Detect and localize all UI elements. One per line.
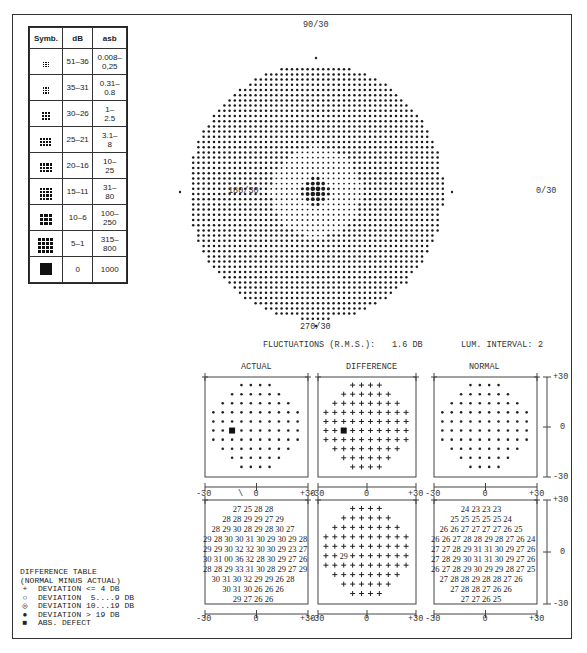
x-tick-zero: 0 [364,489,369,499]
x-tick-zero: 0 [254,614,259,624]
x-tick-min: -30 [309,614,324,624]
difference-panel [318,377,416,477]
x-tick-min: -30 [309,489,324,499]
difference-table-legend: DIFFERENCE TABLE (NORMAL MINUS ACTUAL) +… [20,568,134,628]
x-tick-max: +30 [408,614,423,624]
absolute-defect-marker [229,428,235,434]
x-tick-max: +30 [408,489,423,499]
y-tick-zero: 0 [560,422,565,432]
x-tick-zero: 0 [483,489,488,499]
y-tick-zero: 0 [560,547,565,557]
x-tick-max: +30 [529,614,544,624]
difference-legend-item: ■ABS. DEFECT [20,619,134,628]
x-tick-zero: 0 [364,614,369,624]
deviation-symbol-icon: ■ [20,619,30,628]
x-tick-min: -30 [196,489,211,499]
normal-panel [434,377,537,477]
absolute-defect-marker [341,428,347,434]
x-tick-min: -30 [196,614,211,624]
actual-panel [205,377,308,477]
actual-values-grid: 27 25 28 28 28 28 29 29 27 29 28 29 30 2… [203,504,303,604]
axis-mark: \ [238,489,243,499]
x-tick-min: -30 [425,614,440,624]
difference-values-panel [318,500,416,604]
y-tick-min: -30 [553,472,568,482]
x-tick-min: -30 [425,489,440,499]
deviation-label: ABS. DEFECT [38,619,91,628]
y-tick-min: -30 [553,599,568,609]
x-tick-zero: 0 [254,489,259,499]
y-tick-max: +30 [553,495,568,505]
normal-values-grid: 24 23 23 23 25 25 25 25 25 24 26 26 27 2… [431,504,531,604]
x-tick-max: +30 [529,489,544,499]
y-tick-max: +30 [553,372,568,382]
svg-text:29: 29 [340,552,348,561]
x-tick-zero: 0 [483,614,488,624]
